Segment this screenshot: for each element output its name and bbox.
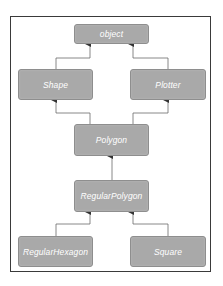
node-regular-hexagon: RegularHexagon [18, 236, 93, 267]
node-polygon: Polygon [74, 124, 149, 156]
node-label: Shape [43, 80, 68, 90]
node-label: RegularHexagon [23, 247, 88, 257]
node-label: object [100, 29, 123, 39]
node-square: Square [130, 236, 206, 267]
node-plotter: Plotter [130, 69, 206, 100]
node-label: Square [154, 247, 182, 257]
node-regular-polygon: RegularPolygon [74, 180, 149, 212]
node-shape: Shape [18, 69, 93, 100]
node-label: Polygon [96, 135, 127, 145]
node-label: RegularPolygon [81, 191, 143, 201]
node-object: object [74, 24, 149, 44]
node-label: Plotter [155, 80, 180, 90]
